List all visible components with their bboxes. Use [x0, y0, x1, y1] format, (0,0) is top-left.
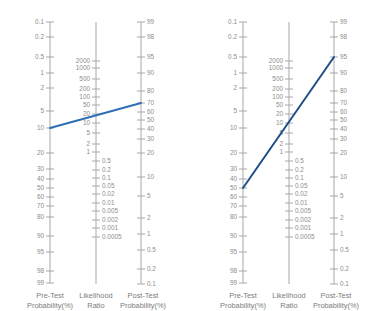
posttest-tick-label: 95 — [147, 53, 155, 60]
posttest-tick-label: 98 — [340, 33, 348, 40]
posttest-tick-label: 99 — [340, 18, 348, 25]
posttest-tick-label: 10 — [147, 173, 155, 180]
posttest-tick-label: 20 — [340, 149, 348, 156]
pretest-tick-label: 40 — [230, 175, 238, 182]
likelihood-tick-label: 0.0005 — [295, 233, 315, 240]
likelihood-tick-label: 0.02 — [102, 190, 115, 197]
likelihood-tick-label: 0.2 — [295, 166, 304, 173]
likelihood-tick-label: 2 — [279, 140, 283, 147]
posttest-tick-label: 50 — [340, 116, 348, 123]
likelihood-tick-label: 50 — [83, 101, 91, 108]
likelihood-tick-label: 0.0005 — [102, 233, 122, 240]
likelihood-tick-label: 0.05 — [295, 182, 308, 189]
posttest-tick-label: 50 — [147, 116, 155, 123]
left-nomogram-svg: 0.10.20.51251020304050607080909598992000… — [0, 0, 192, 311]
likelihood-tick-label: 0.01 — [295, 199, 308, 206]
pretest-tick-label: 98 — [230, 267, 238, 274]
posttest-tick-label: 60 — [340, 108, 348, 115]
posttest-tick-label: 0.2 — [147, 265, 156, 272]
posttest-tick-label: 5 — [147, 192, 151, 199]
likelihood-tick-label: 100 — [272, 93, 283, 100]
likelihood-tick-label: 200 — [272, 85, 283, 92]
pretest-tick-label: 60 — [230, 193, 238, 200]
pretest-tick-label: 70 — [230, 202, 238, 209]
pretest-tick-label: 80 — [37, 213, 45, 220]
likelihood-tick-label: 0.5 — [102, 157, 111, 164]
pretest-tick-label: 98 — [37, 267, 45, 274]
likelihood-caption-line2: Ratio — [280, 301, 297, 310]
likelihood-tick-label: 10 — [83, 119, 91, 126]
likelihood-tick-label: 0.01 — [102, 199, 115, 206]
posttest-tick-label: 40 — [340, 125, 348, 132]
likelihood-tick-label: 1000 — [76, 64, 91, 71]
likelihood-tick-label: 0.002 — [102, 216, 118, 223]
posttest-tick-label: 1 — [147, 230, 151, 237]
posttest-tick-label: 70 — [147, 99, 155, 106]
pretest-tick-label: 0.5 — [228, 53, 237, 60]
likelihood-tick-label: 0.1 — [295, 174, 304, 181]
posttest-tick-label: 2 — [147, 214, 151, 221]
pretest-tick-label: 70 — [37, 202, 45, 209]
posttest-tick-label: 2 — [340, 214, 344, 221]
pretest-tick-label: 5 — [233, 107, 237, 114]
posttest-caption-line2: Probability(%) — [120, 301, 166, 310]
posttest-tick-label: 60 — [147, 108, 155, 115]
posttest-tick-label: 0.2 — [340, 265, 349, 272]
likelihood-tick-label: 0.05 — [102, 182, 115, 189]
pretest-tick-label: 10 — [37, 124, 45, 131]
likelihood-caption-line2: Ratio — [87, 301, 104, 310]
likelihood-tick-label: 2000 — [269, 57, 284, 64]
pretest-tick-label: 50 — [37, 184, 45, 191]
likelihood-tick-label: 1 — [86, 148, 90, 155]
likelihood-tick-label: 500 — [272, 75, 283, 82]
likelihood-tick-label: 0.2 — [102, 166, 111, 173]
posttest-tick-label: 5 — [340, 192, 344, 199]
pretest-tick-label: 2 — [40, 84, 44, 91]
likelihood-tick-label: 10 — [276, 119, 284, 126]
right-nomogram-svg: 0.10.20.51251020304050607080909598992000… — [193, 0, 385, 311]
likelihood-tick-label: 0.005 — [102, 207, 118, 214]
posttest-tick-label: 0.5 — [340, 246, 349, 253]
posttest-tick-label: 1 — [340, 230, 344, 237]
pretest-tick-label: 1 — [40, 69, 44, 76]
likelihood-tick-label: 1 — [279, 148, 283, 155]
pretest-tick-label: 30 — [37, 165, 45, 172]
posttest-tick-label: 90 — [147, 69, 155, 76]
pretest-caption-line2: Probability(%) — [27, 301, 73, 310]
pretest-tick-label: 0.1 — [228, 18, 237, 25]
likelihood-tick-label: 100 — [79, 93, 90, 100]
posttest-tick-label: 99 — [147, 18, 155, 25]
pretest-tick-label: 95 — [37, 248, 45, 255]
posttest-tick-label: 0.1 — [340, 280, 349, 287]
likelihood-tick-label: 5 — [86, 129, 90, 136]
likelihood-caption-line1: Likelihood — [79, 291, 112, 300]
likelihood-tick-label: 500 — [79, 75, 90, 82]
posttest-tick-label: 90 — [340, 69, 348, 76]
likelihood-tick-label: 1000 — [269, 64, 284, 71]
pretest-tick-label: 40 — [37, 175, 45, 182]
likelihood-tick-label: 0.5 — [295, 157, 304, 164]
pretest-tick-label: 0.2 — [35, 33, 44, 40]
posttest-tick-label: 0.1 — [147, 280, 156, 287]
pretest-tick-label: 5 — [40, 107, 44, 114]
pretest-tick-label: 2 — [233, 84, 237, 91]
pretest-tick-label: 0.2 — [228, 33, 237, 40]
likelihood-tick-label: 50 — [276, 101, 284, 108]
likelihood-tick-label: 0.001 — [102, 224, 118, 231]
pretest-tick-label: 80 — [230, 213, 238, 220]
likelihood-tick-label: 200 — [79, 85, 90, 92]
pretest-tick-label: 99 — [230, 279, 238, 286]
pretest-tick-label: 20 — [37, 149, 45, 156]
likelihood-tick-label: 0.1 — [102, 174, 111, 181]
likelihood-tick-label: 0.02 — [295, 190, 308, 197]
pretest-caption-line1: Pre-Test — [36, 291, 64, 300]
likelihood-tick-label: 0.005 — [295, 207, 311, 214]
pretest-tick-label: 50 — [230, 184, 238, 191]
pretest-tick-label: 10 — [230, 124, 238, 131]
likelihood-caption-line1: Likelihood — [272, 291, 305, 300]
right-nomogram-panel: 0.10.20.51251020304050607080909598992000… — [193, 0, 385, 311]
posttest-tick-label: 70 — [340, 99, 348, 106]
pretest-tick-label: 95 — [230, 248, 238, 255]
posttest-tick-label: 10 — [340, 173, 348, 180]
pretest-tick-label: 0.1 — [35, 18, 44, 25]
